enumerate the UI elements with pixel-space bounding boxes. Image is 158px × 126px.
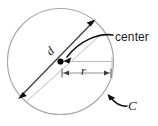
radius-arrow-left-icon [64, 71, 70, 76]
curve-label-c: C [128, 99, 137, 112]
center-point-icon [57, 58, 63, 64]
diameter-line [21, 22, 94, 97]
radius-arrow-right-icon [104, 71, 110, 76]
circle-geometry-figure: center C r d [0, 0, 158, 126]
center-label: center [115, 31, 149, 43]
center-leader-line [67, 35, 113, 57]
radius-label-r: r [81, 65, 86, 77]
curve-leader-arrowhead-icon [108, 94, 116, 100]
diameter-arrowhead-upper-icon [87, 20, 96, 27]
diameter-parallel-guide [27, 35, 102, 102]
